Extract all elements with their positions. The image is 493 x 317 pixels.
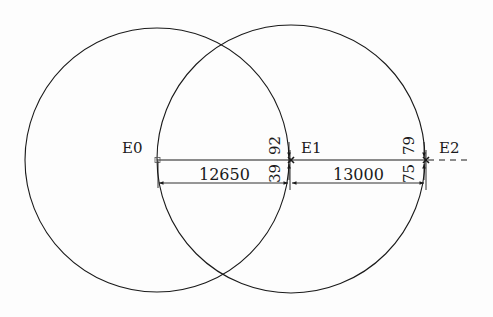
diagram-svg: E0 E1 E2 12650 13000 92 39 79 75 xyxy=(0,0,493,317)
offset-value-e2-upper: 79 xyxy=(400,136,418,155)
offset-value-e1-upper: 92 xyxy=(266,136,284,155)
dimension-value-e0-e1: 12650 xyxy=(199,165,250,184)
label-e0: E0 xyxy=(122,139,143,157)
dimension-value-e1-e2: 13000 xyxy=(333,165,384,184)
offset-value-e1-lower: 39 xyxy=(266,164,284,183)
label-e1: E1 xyxy=(301,139,322,157)
label-e2: E2 xyxy=(439,139,460,157)
offset-value-e2-lower: 75 xyxy=(400,164,418,183)
diagram-canvas: E0 E1 E2 12650 13000 92 39 79 75 xyxy=(0,0,493,317)
